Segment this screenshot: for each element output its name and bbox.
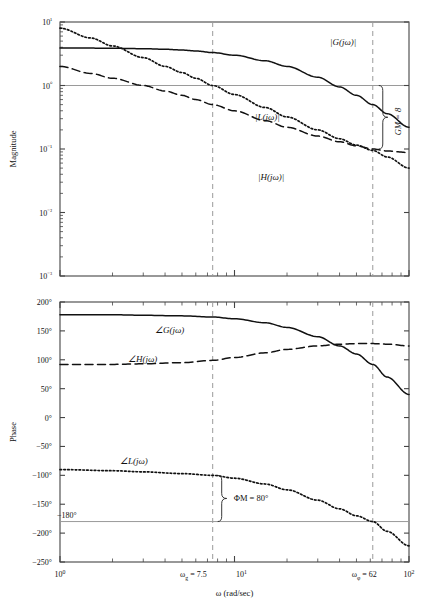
- phase-y-tick-label: −100°: [32, 471, 52, 480]
- phase-y-tick-label: −50°: [36, 442, 52, 451]
- phase-margin-brace: [218, 475, 227, 521]
- phase-y-tick-label: 50°: [41, 385, 52, 394]
- magnitude-y-tick-label: 10⁻²: [39, 208, 52, 218]
- phase-y-tick-label: −150°: [32, 500, 52, 509]
- phase-y-tick-label: −200°: [32, 529, 52, 538]
- phase-plot-frame: [60, 302, 409, 562]
- magnitude-curve-H: [60, 66, 409, 152]
- magnitude-label-G: |G(jω)|: [330, 37, 356, 47]
- phase-y-tick-label: 0°: [45, 414, 52, 423]
- magnitude-curve-G: [60, 48, 409, 127]
- phase-180-reference-label: −180°: [57, 511, 77, 520]
- phase-label-G: ∠G(jω): [155, 325, 184, 335]
- x-tick-label-10: 101: [236, 569, 247, 579]
- bode-plot-canvas: 10¹10⁰10⁻¹10⁻²10⁻³|G(jω)||L(jω)||H(jω)|G…: [0, 0, 428, 603]
- gain-margin-brace: [379, 86, 388, 150]
- phase-curve-G: [60, 315, 409, 395]
- x-tick-label-1: 100: [55, 569, 66, 579]
- phase-axis-title: Phase: [8, 422, 18, 442]
- magnitude-y-tick-label: 10⁰: [42, 81, 53, 91]
- x-tick-label-100: 102: [404, 569, 415, 579]
- bode-plot-figure: 10¹10⁰10⁻¹10⁻²10⁻³|G(jω)||L(jω)||H(jω)|G…: [0, 0, 428, 603]
- phase-label-H: ∠H(jω): [128, 354, 157, 364]
- magnitude-label-H: |H(jω)|: [258, 172, 284, 182]
- magnitude-y-tick-label: 10⁻³: [39, 271, 52, 281]
- phase-y-tick-label: 100°: [37, 356, 52, 365]
- phase-y-tick-label: 150°: [37, 327, 52, 336]
- x-marker-label-gain-crossover: ωg = 7.5: [180, 570, 207, 581]
- phase-y-tick-label: 200°: [37, 298, 52, 307]
- magnitude-plot-frame: [60, 22, 409, 276]
- phase-margin-label: ΦM = 80°: [234, 493, 269, 503]
- phase-curve-L: [60, 470, 409, 546]
- x-marker-label-phase-crossover: ωφ = 62: [352, 570, 377, 581]
- magnitude-axis-title: Magnitude: [8, 130, 18, 167]
- gain-margin-label: GM = 8: [393, 107, 403, 135]
- phase-y-tick-label: −250°: [32, 558, 52, 567]
- magnitude-y-tick-label: 10¹: [42, 17, 52, 27]
- magnitude-y-tick-label: 10⁻¹: [39, 144, 52, 154]
- x-axis-title: ω (rad/sec): [216, 588, 254, 598]
- magnitude-label-L: |L(jω)|: [255, 112, 280, 122]
- magnitude-curve-L: [60, 28, 409, 168]
- phase-label-L: ∠L(jω): [120, 456, 148, 466]
